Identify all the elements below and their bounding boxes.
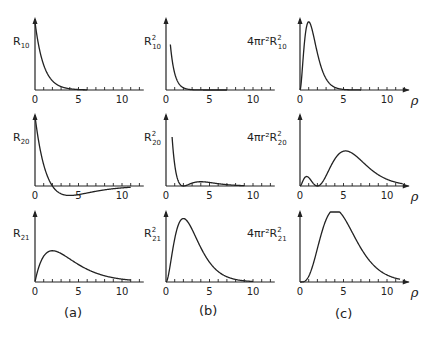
x-tick-label: 5 [75, 94, 81, 105]
curve-R20sq [172, 137, 244, 186]
y-axis-label: R221 [144, 226, 161, 243]
panel-R10: 0510R10 [13, 17, 144, 105]
y-axis-label: R210 [144, 34, 161, 51]
curve-R21sq [166, 219, 253, 282]
x-tick-label: 10 [116, 190, 129, 201]
curve-R21 [35, 251, 131, 281]
x-tick-label: 0 [32, 286, 38, 297]
panel-label-a: (a) [64, 305, 82, 320]
y-axis-arrow [298, 17, 303, 24]
x-axis-label: ρ [410, 93, 419, 108]
y-axis-arrow [298, 210, 303, 217]
x-tick-label: 10 [381, 190, 394, 201]
x-tick-label: 5 [75, 286, 81, 297]
x-tick-label: 5 [206, 190, 212, 201]
y-label-sub: 10 [152, 43, 161, 51]
panel-P21: ρ05104πr²R221 [247, 210, 419, 300]
y-label-sub: 10 [21, 42, 30, 50]
panel-R20sq: 0510R220 [144, 113, 275, 201]
x-tick-label: 10 [381, 94, 394, 105]
y-label-sup: 2 [152, 226, 156, 234]
curve-R20 [35, 117, 131, 195]
x-axis-arrow [403, 88, 410, 93]
y-axis-arrow [33, 17, 38, 24]
panel-label-c: (c) [335, 306, 352, 321]
y-label-sub: 21 [21, 234, 30, 242]
y-label-sub: 21 [152, 235, 161, 243]
x-tick-label: 0 [297, 190, 303, 201]
x-tick-label: 10 [116, 286, 129, 297]
x-tick-label: 0 [297, 94, 303, 105]
x-tick-label: 10 [247, 190, 260, 201]
x-tick-label: 5 [340, 94, 346, 105]
y-label-sup: 2 [277, 226, 281, 234]
y-label-sup: 2 [152, 130, 156, 138]
x-axis-label: ρ [410, 285, 419, 300]
x-tick-label: 0 [163, 190, 169, 201]
panel-label-b: (b) [199, 303, 217, 318]
y-label-prefix: 4πr² [247, 35, 270, 48]
panel-R21: 0510R21 [13, 210, 144, 297]
x-axis-arrow [403, 184, 410, 189]
y-axis-label: R21 [13, 227, 30, 242]
y-label-sub: 10 [278, 43, 287, 51]
panel-R10sq: 0510R210 [144, 17, 275, 105]
x-tick-label: 5 [206, 286, 212, 297]
x-tick-label: 0 [297, 286, 303, 297]
y-axis-label: 4πr²R210 [247, 34, 287, 51]
y-label-sub: 20 [21, 138, 30, 146]
x-tick-label: 10 [247, 286, 260, 297]
hydrogen-radial-functions-figure: 0510R100510R210ρ05104πr²R2100510R200510R… [0, 0, 433, 341]
x-tick-label: 0 [163, 286, 169, 297]
x-tick-label: 0 [163, 94, 169, 105]
y-label-sub: 20 [152, 139, 161, 147]
y-axis-arrow [164, 17, 169, 24]
panel-P10: ρ05104πr²R210 [247, 17, 419, 108]
panel-P20: ρ05104πr²R220 [247, 113, 419, 204]
y-axis-label: 4πr²R220 [247, 130, 287, 147]
curve-R10sq [170, 45, 227, 90]
x-tick-label: 0 [32, 190, 38, 201]
panel-R21sq: 0510R221 [144, 210, 275, 297]
x-axis-arrow [403, 280, 410, 285]
x-tick-label: 10 [381, 286, 394, 297]
y-label-sup: 2 [152, 34, 156, 42]
y-axis-label: R10 [13, 35, 30, 50]
x-tick-label: 5 [206, 94, 212, 105]
x-tick-label: 5 [340, 286, 346, 297]
y-axis-arrow [164, 210, 169, 217]
y-axis-label: R220 [144, 130, 161, 147]
x-axis-label: ρ [410, 189, 419, 204]
y-axis-label: 4πr²R221 [247, 226, 287, 243]
x-tick-label: 10 [247, 94, 260, 105]
x-tick-label: 0 [32, 94, 38, 105]
panel-R20: 0510R20 [13, 113, 144, 201]
y-label-sup: 2 [277, 34, 281, 42]
y-axis-arrow [33, 210, 38, 217]
curve-P10 [300, 22, 361, 90]
x-tick-label: 5 [340, 190, 346, 201]
y-label-sub: 21 [278, 235, 287, 243]
y-label-prefix: 4πr² [247, 227, 270, 240]
y-label-prefix: 4πr² [247, 131, 270, 144]
y-axis-arrow [298, 113, 303, 120]
y-label-sub: 20 [278, 139, 287, 147]
x-tick-label: 10 [116, 94, 129, 105]
curve-P20 [300, 151, 402, 186]
y-axis-arrow [164, 113, 169, 120]
y-label-sup: 2 [277, 130, 281, 138]
y-axis-label: R20 [13, 131, 30, 146]
curve-P21 [300, 212, 400, 282]
curve-R10 [35, 23, 87, 89]
